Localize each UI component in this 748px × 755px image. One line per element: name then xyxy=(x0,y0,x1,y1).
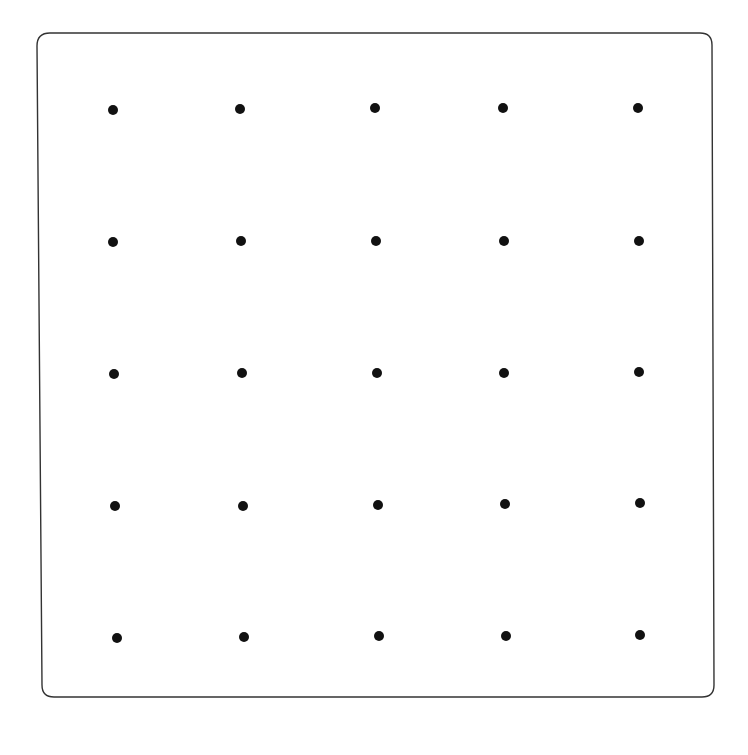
peg-dot-icon xyxy=(499,236,509,246)
peg-dot-icon xyxy=(112,633,122,643)
peg-dot-icon xyxy=(110,501,120,511)
peg-dot-icon xyxy=(372,368,382,378)
peg-dot-icon xyxy=(109,369,119,379)
geoboard xyxy=(0,0,748,755)
board-frame xyxy=(37,33,714,697)
peg-dot-icon xyxy=(634,367,644,377)
peg-dot-icon xyxy=(371,236,381,246)
peg-dot-icon xyxy=(373,500,383,510)
peg-dot-icon xyxy=(237,368,247,378)
peg-dot-icon xyxy=(635,630,645,640)
peg-dot-icon xyxy=(108,105,118,115)
peg-dot-icon xyxy=(498,103,508,113)
peg-dot-icon xyxy=(235,104,245,114)
peg-dot-icon xyxy=(238,501,248,511)
peg-dot-icon xyxy=(500,499,510,509)
peg-dot-icon xyxy=(236,236,246,246)
peg-dot-icon xyxy=(633,103,643,113)
peg-dot-icon xyxy=(108,237,118,247)
peg-dot-icon xyxy=(634,236,644,246)
peg-dot-icon xyxy=(635,498,645,508)
peg-dot-icon xyxy=(501,631,511,641)
peg-dot-icon xyxy=(370,103,380,113)
peg-dot-icon xyxy=(499,368,509,378)
peg-dot-icon xyxy=(239,632,249,642)
peg-dot-icon xyxy=(374,631,384,641)
